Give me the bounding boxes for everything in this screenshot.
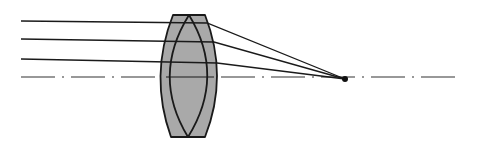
focal-point [342,76,348,82]
lens-diagram: Converging lens doublet focusing paralle… [0,0,485,149]
